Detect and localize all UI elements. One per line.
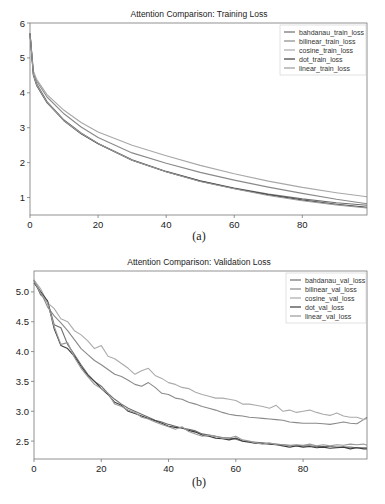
y-tick-label: 6: [20, 18, 25, 29]
x-tick-label: 40: [161, 219, 172, 230]
y-tick-label: 1: [20, 192, 25, 203]
legend-label: bilinear_val_loss: [305, 286, 357, 294]
x-tick-label: 40: [163, 463, 174, 474]
chart-title: Attention Comparison: Validation Loss: [127, 257, 270, 267]
y-tick-label: 2.5: [16, 436, 29, 447]
y-tick-label: 2: [20, 157, 25, 168]
validation-loss-chart: Attention Comparison: Validation Loss 2.…: [16, 257, 367, 489]
y-tick-label: 5.0: [16, 286, 29, 297]
chart-title: Attention Comparison: Training Loss: [130, 9, 267, 19]
y-tick-label: 4.5: [16, 316, 29, 327]
legend-label: bilinear_train_loss: [299, 38, 356, 46]
x-tick-label: 0: [27, 219, 32, 230]
y-tick-label: 3: [20, 122, 25, 133]
x-tick-label: 80: [298, 463, 309, 474]
x-tick-label: 60: [231, 463, 242, 474]
y-axis: 2.53.03.54.04.55.0: [16, 286, 34, 446]
legend-label: dot_train_loss: [299, 56, 343, 64]
legend-label: linear_val_loss: [305, 313, 352, 321]
legend-label: cosine_val_loss: [305, 295, 355, 303]
figure-caption: (a): [192, 229, 205, 243]
y-axis: 123456: [20, 18, 30, 204]
x-tick-label: 20: [96, 463, 107, 474]
x-axis: 020406080: [27, 215, 307, 230]
y-tick-label: 3.5: [16, 376, 29, 387]
legend-label: bahdanau_val_loss: [305, 277, 366, 285]
x-tick-label: 80: [297, 219, 308, 230]
y-tick-label: 3.0: [16, 406, 29, 417]
legend-label: linear_train_loss: [299, 65, 350, 73]
legend: bahdanau_val_lossbilinear_val_losscosine…: [286, 273, 366, 323]
y-tick-label: 4.0: [16, 346, 29, 357]
figure-caption: (b): [192, 475, 206, 489]
y-tick-label: 4: [20, 87, 25, 98]
x-tick-label: 0: [31, 463, 36, 474]
legend-label: cosine_train_loss: [299, 47, 354, 55]
x-axis: 020406080: [31, 459, 308, 474]
legend-label: dot_val_loss: [305, 304, 344, 312]
training-loss-chart: Attention Comparison: Training Loss 1234…: [20, 9, 367, 243]
legend-label: bahdanau_train_loss: [299, 29, 364, 37]
figure: Attention Comparison: Training Loss 1234…: [0, 0, 385, 504]
x-tick-label: 60: [229, 219, 240, 230]
y-tick-label: 5: [20, 52, 25, 63]
legend: bahdanau_train_lossbilinear_train_lossco…: [280, 25, 366, 75]
x-tick-label: 20: [93, 219, 104, 230]
